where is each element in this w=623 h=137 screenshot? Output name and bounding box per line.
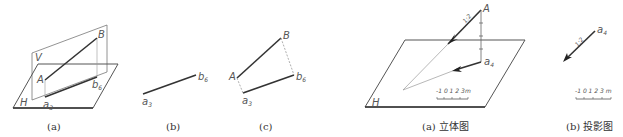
label-a3: a3	[43, 99, 53, 111]
caption-a: (a)	[47, 121, 61, 132]
label-a4: a4	[597, 24, 607, 36]
slope-label: 1:2	[573, 36, 585, 48]
figure-3d: A a4 1:2 H -1 0 1 2 3m (a) 立体图	[365, 3, 525, 132]
h-plane	[13, 64, 118, 108]
caption-3d: (a) 立体图	[422, 120, 469, 132]
label-B: B	[283, 30, 290, 41]
label-h: H	[372, 97, 380, 108]
line-a3b6	[45, 77, 97, 97]
label-b6: b6	[296, 71, 306, 83]
caption-projection: (b) 投影图	[566, 120, 613, 132]
label-b6: b6	[198, 71, 208, 83]
label-a3: a3	[242, 95, 252, 107]
line-ab	[45, 38, 97, 80]
scale-bar: -1 0 1 2 3m	[436, 87, 471, 99]
label-a4: a4	[484, 56, 494, 68]
label-a3: a3	[142, 96, 152, 108]
label-B: B	[98, 29, 105, 40]
caption-b: (b)	[166, 121, 180, 132]
diagram-canvas: V H A B a3 b6 (a) a3 b6 (b) A B a3 b6 (c…	[0, 0, 623, 137]
svg-text:-1 0 1 2 3m: -1 0 1 2 3m	[436, 87, 471, 94]
slope-label: 1:2	[461, 12, 473, 24]
caption-c: (c)	[259, 121, 273, 132]
label-h: H	[20, 97, 28, 108]
label-A: A	[482, 3, 490, 14]
line-a3b6-proj	[143, 75, 196, 94]
figure-a: V H A B a3 b6 (a)	[13, 25, 118, 132]
figure-projection: a4 1:2 -1 0 1 2 3 m (b) 投影图	[563, 24, 613, 132]
label-A: A	[36, 74, 44, 85]
svg-text:-1 0 1 2 3 m: -1 0 1 2 3 m	[575, 87, 612, 94]
label-b6: b6	[92, 79, 102, 91]
label-A: A	[228, 71, 236, 82]
label-v: V	[35, 52, 43, 63]
figure-c: A B a3 b6 (c)	[228, 30, 306, 132]
figure-b: a3 b6 (b)	[142, 71, 208, 132]
scale-bar: -1 0 1 2 3 m	[575, 87, 612, 99]
